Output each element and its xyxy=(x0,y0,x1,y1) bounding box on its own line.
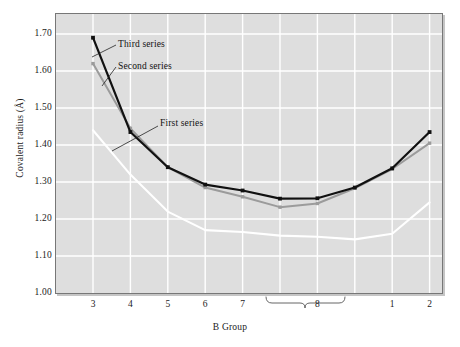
x-tick-label: 7 xyxy=(228,299,258,309)
annotation-third-series: Third series xyxy=(118,39,165,49)
x-tick-label: 2 xyxy=(415,299,445,309)
x-tick-label: 4 xyxy=(115,299,145,309)
x-tick-label: 1 xyxy=(377,299,407,309)
y-axis-title: Covalent radius (Å) xyxy=(15,58,25,218)
x-tick-label: 8 xyxy=(302,299,332,309)
x-axis-title: B Group xyxy=(0,322,460,332)
x-axis-ticks: 34567812 xyxy=(0,0,460,347)
x-tick-label: 6 xyxy=(190,299,220,309)
chart-figure: 1.001.101.201.301.401.501.601.70 3456781… xyxy=(0,0,460,347)
x-tick-label: 5 xyxy=(153,299,183,309)
annotation-second-series: Second series xyxy=(118,61,172,71)
x-tick-label: 3 xyxy=(78,299,108,309)
annotation-first-series: First series xyxy=(160,118,203,128)
